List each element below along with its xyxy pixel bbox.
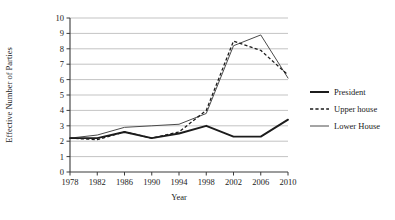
y-tick-label: 9 <box>60 28 64 38</box>
legend-label: Upper house <box>334 104 377 114</box>
x-tick-label: 1986 <box>116 177 133 187</box>
y-tick-label: 8 <box>60 44 64 54</box>
y-tick-labels-group: 012345678910 <box>56 13 65 177</box>
x-tick-labels-group: 197819821986199019941998200220062010 <box>62 177 297 187</box>
y-tick-label: 5 <box>60 90 64 100</box>
y-tick-label: 4 <box>60 105 65 115</box>
x-tick-label: 1978 <box>62 177 79 187</box>
x-tick-label: 1998 <box>198 177 215 187</box>
series-line-president <box>70 120 288 138</box>
legend-item[interactable]: Lower House <box>310 121 380 131</box>
series-line-upper-house <box>70 41 288 140</box>
x-tick-label: 1982 <box>89 177 106 187</box>
legend: PresidentUpper houseLower House <box>310 87 380 131</box>
y-tick-label: 1 <box>60 152 64 162</box>
y-tick-label: 0 <box>60 167 64 177</box>
x-tick-label: 1990 <box>143 177 160 187</box>
y-tick-label: 10 <box>56 13 65 23</box>
data-series-group <box>70 35 288 140</box>
x-axis-title: Year <box>171 192 187 202</box>
legend-item[interactable]: President <box>310 87 366 97</box>
x-tick-label: 2002 <box>225 177 242 187</box>
x-tick-label: 2010 <box>280 177 297 187</box>
y-axis-title: Effective Number of Parties <box>4 47 14 142</box>
line-chart-svg: 012345678910 197819821986199019941998200… <box>0 0 395 220</box>
y-tick-label: 7 <box>60 59 64 69</box>
legend-label: Lower House <box>334 121 380 131</box>
legend-label: President <box>334 87 366 97</box>
legend-item[interactable]: Upper house <box>310 104 377 114</box>
chart-figure: 012345678910 197819821986199019941998200… <box>0 0 395 220</box>
x-tick-label: 2006 <box>252 177 269 187</box>
y-tick-label: 3 <box>60 121 64 131</box>
y-tick-label: 2 <box>60 136 64 146</box>
x-tick-label: 1994 <box>171 177 189 187</box>
series-line-lower-house <box>70 35 288 138</box>
y-tick-label: 6 <box>60 75 64 85</box>
